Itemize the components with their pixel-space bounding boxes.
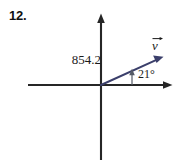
vector-diagram-figure: 12. 854.2 21° v: [0, 0, 180, 168]
arrow-right-icon: [163, 81, 173, 89]
coordinate-axes-diagram: [0, 0, 180, 168]
magnitude-label: 854.2: [72, 53, 101, 67]
arrow-up-right-icon: [153, 55, 163, 63]
vector-arrow-overbar-icon: [152, 36, 163, 41]
arrow-up-icon: [97, 14, 105, 24]
angle-label: 21°: [138, 68, 155, 81]
vector-name-label: v: [152, 39, 158, 53]
